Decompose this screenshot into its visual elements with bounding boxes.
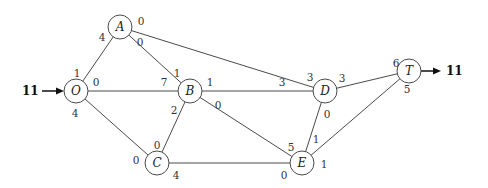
node-T: T <box>397 59 421 83</box>
node-O-label: O <box>71 84 81 98</box>
edge-O-A-label-O: 1 <box>74 67 81 79</box>
source-arrowhead-icon <box>56 88 64 95</box>
edge-O-B-label-B: 7 <box>161 76 168 88</box>
edge-D-T <box>325 71 409 91</box>
edge-E-T-label-E: 1 <box>321 158 328 170</box>
edge-D-T-label-T: 6 <box>393 57 400 69</box>
edge-O-A-label-A: 4 <box>99 31 106 43</box>
sink-arrow: 11 <box>421 64 463 78</box>
edges <box>76 27 409 163</box>
edge-O-C-label-O: 4 <box>72 107 79 119</box>
edge-C-E-label-E: 0 <box>281 169 288 181</box>
edge-A-D <box>120 27 325 91</box>
edge-D-T-label-D: 3 <box>339 72 346 84</box>
edge-E-T-label-T: 5 <box>404 83 411 95</box>
nodes: O A B C D E T <box>64 15 421 175</box>
edge-O-C-label-C: 0 <box>133 154 140 166</box>
edge-A-B-label-B: 1 <box>174 67 181 79</box>
edge-B-C-label-B: 2 <box>171 104 178 116</box>
edge-A-B-label-A: 0 <box>137 36 144 48</box>
edge-C-E-label-C: 4 <box>173 169 180 181</box>
edge-B-E <box>190 91 302 163</box>
node-A: A <box>108 15 132 39</box>
edge-A-D-label-D: 3 <box>307 71 314 83</box>
node-D-label: D <box>319 84 330 98</box>
edge-B-E-label-E: 5 <box>288 141 295 153</box>
edge-B-E-label-B: 0 <box>215 99 222 111</box>
edge-O-C <box>76 91 157 163</box>
edge-A-D-label-A: 0 <box>138 15 145 27</box>
node-T-label: T <box>405 64 414 78</box>
edge-B-D-label-D: 3 <box>279 76 286 88</box>
edge-A-B <box>120 27 190 91</box>
edge-O-B-label-O: 0 <box>93 76 100 88</box>
source-flow-label: 11 <box>22 84 39 98</box>
source-arrow: 11 <box>22 84 64 98</box>
edge-D-E-label-D: 0 <box>324 108 331 120</box>
edge-labels: 1 4 0 7 4 0 0 1 0 3 1 3 2 0 0 5 4 0 3 6 … <box>72 15 411 181</box>
node-B: B <box>178 79 202 103</box>
node-O: O <box>64 79 88 103</box>
node-D: D <box>313 79 337 103</box>
edge-B-C-label-C: 0 <box>154 139 161 151</box>
edge-B-D-label-B: 1 <box>207 76 214 88</box>
network-diagram: 11 11 O A B C D E <box>0 0 488 188</box>
sink-arrowhead-icon <box>433 68 441 75</box>
node-E: E <box>290 151 314 175</box>
node-B-label: B <box>185 84 195 98</box>
sink-flow-label: 11 <box>446 64 463 78</box>
node-C-label: C <box>152 156 161 170</box>
node-A-label: A <box>115 20 125 34</box>
node-E-label: E <box>297 156 307 170</box>
edge-D-E-label-E: 1 <box>313 133 320 145</box>
node-C: C <box>145 151 169 175</box>
